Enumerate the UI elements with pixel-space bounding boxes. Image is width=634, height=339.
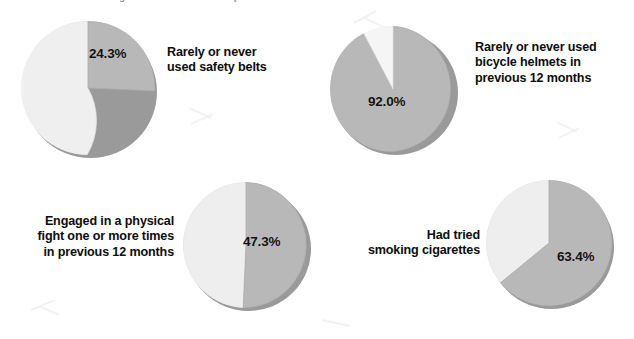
- page-header-text: risk of these risk-taking behaviors that…: [0, 0, 634, 2]
- scan-artifact: [353, 10, 377, 24]
- pie-slices: [486, 180, 612, 306]
- pie-chart-bicycle-helmets: [330, 26, 458, 154]
- pie-slices: [21, 21, 155, 155]
- pie-caption-smoking-cigarettes: Had tried smoking cigarettes: [325, 228, 480, 259]
- pie-caption-bicycle-helmets: Rarely or never used bicycle helmets in …: [475, 40, 625, 86]
- pie-disc: [486, 180, 612, 306]
- scan-artifact: [31, 299, 56, 311]
- pie-value-label-bicycle-helmets: 92.0%: [368, 94, 405, 109]
- pie-value-label-physical-fight: 47.3%: [243, 234, 280, 249]
- scan-artifact: [557, 121, 578, 132]
- scan-artifact: [559, 127, 580, 138]
- scan-artifact: [191, 113, 214, 125]
- pie-chart-smoking-cigarettes: [486, 180, 614, 308]
- pie-slices: [330, 26, 456, 152]
- pie-caption-safety-belts: Rarely or never used safety belts: [167, 45, 297, 76]
- pie-disc: [21, 21, 155, 155]
- scan-artifact: [322, 319, 350, 327]
- scan-artifact: [189, 107, 212, 119]
- page-header-strip: risk of these risk-taking behaviors that…: [0, 0, 634, 3]
- pie-value-label-safety-belts: 24.3%: [89, 46, 126, 61]
- pie-caption-physical-fight: Engaged in a physical fight one or more …: [14, 214, 174, 260]
- scan-artifact: [40, 306, 59, 315]
- pie-slice-other: [183, 182, 246, 308]
- pie-chart-safety-belts: [21, 21, 157, 157]
- pie-slice-other: [21, 21, 96, 155]
- pie-value-label-smoking-cigarettes: 63.4%: [557, 249, 594, 264]
- pie-disc: [330, 26, 456, 152]
